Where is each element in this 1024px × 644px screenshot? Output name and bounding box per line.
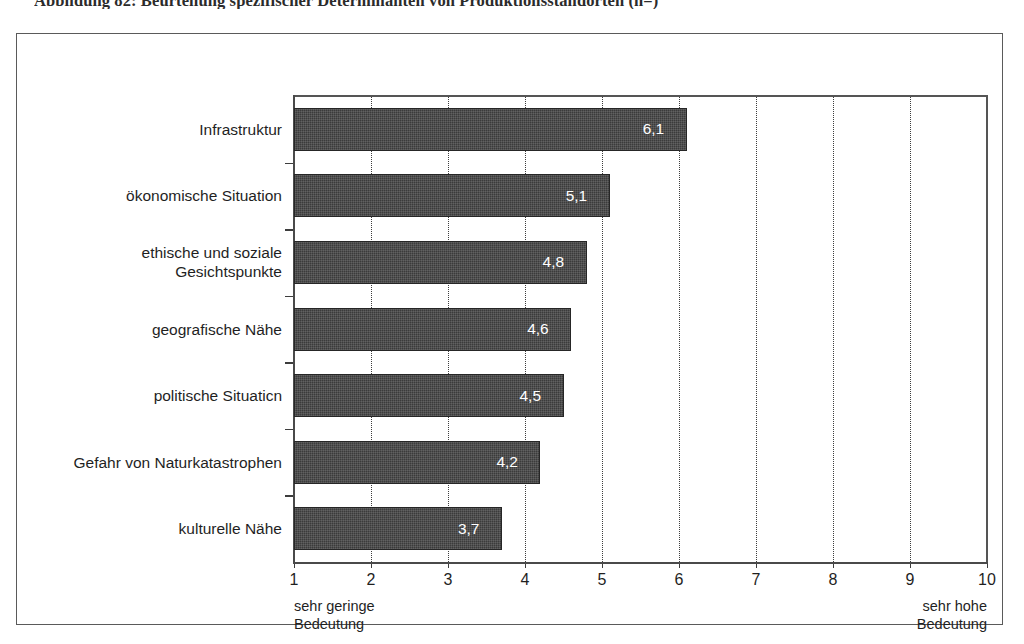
category-label: kulturelle Nähe	[36, 519, 294, 538]
category-label-line: Infrastruktur	[36, 120, 282, 139]
x-axis-label-6: 6	[659, 571, 699, 589]
bar	[294, 174, 610, 217]
bar-value-label: 4,8	[543, 254, 565, 270]
x-axis-label-8: 8	[813, 571, 853, 589]
scale-anchor-low: sehr geringe Bedeutung	[294, 597, 375, 633]
bar-value-label: 5,1	[566, 188, 588, 204]
category-label-line: Gesichtspunkte	[36, 262, 282, 281]
figure-frame: Infrastrukturökonomische Situationethisc…	[16, 33, 1003, 625]
category-label: Gefahr von Naturkatastrophen	[36, 453, 294, 472]
bar	[294, 108, 687, 151]
category-label-line: kulturelle Nähe	[36, 519, 282, 538]
category-label-line: geografische Nähe	[36, 320, 282, 339]
x-axis-line	[293, 562, 988, 564]
category-label-line: Gefahr von Naturkatastrophen	[36, 453, 282, 472]
x-axis-label-10: 10	[967, 571, 1007, 589]
plot-area: 6,15,14,84,64,54,23,7	[294, 96, 987, 562]
x-axis-label-4: 4	[505, 571, 545, 589]
bar-value-label: 4,6	[527, 321, 549, 337]
bar-value-label: 4,5	[520, 388, 542, 404]
category-axis-labels: Infrastrukturökonomische Situationethisc…	[17, 34, 294, 626]
bar-value-label: 6,1	[643, 121, 665, 137]
category-label-line: ethische und soziale	[36, 243, 282, 262]
category-label: ökonomische Situation	[36, 186, 294, 205]
category-label: politische Situaticn	[36, 386, 294, 405]
category-label-line: politische Situaticn	[36, 386, 282, 405]
scale-anchor-low-line1: sehr geringe	[294, 597, 375, 615]
category-label-line: ökonomische Situation	[36, 186, 282, 205]
category-label: ethische und sozialeGesichtspunkte	[36, 243, 294, 281]
x-axis-label-1: 1	[274, 571, 314, 589]
x-axis-label-3: 3	[428, 571, 468, 589]
scale-anchor-low-line2: Bedeutung	[294, 615, 375, 633]
x-axis-label-2: 2	[351, 571, 391, 589]
x-axis-label-5: 5	[582, 571, 622, 589]
scale-anchor-high: sehr hohe Bedeutung	[787, 597, 987, 633]
bar-value-label: 4,2	[496, 454, 518, 470]
x-axis-label-7: 7	[736, 571, 776, 589]
category-label: Infrastruktur	[36, 120, 294, 139]
scale-anchor-high-line1: sehr hohe	[787, 597, 987, 615]
scale-anchor-high-line2: Bedeutung	[787, 615, 987, 633]
category-label: geografische Nähe	[36, 320, 294, 339]
bar-value-label: 3,7	[458, 521, 480, 537]
figure-caption: Abbildung 82: Beurteilung spezifischer D…	[34, 0, 994, 9]
x-axis-label-9: 9	[890, 571, 930, 589]
